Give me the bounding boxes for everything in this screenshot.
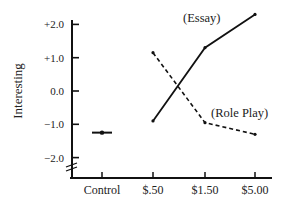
data-point [203,121,206,124]
x-tick-label: $.50 [143,183,164,197]
y-tick-label: −2.0 [44,152,64,164]
y-tick-label: 0.0 [50,85,64,97]
data-point [253,133,256,136]
x-tick-label: Control [84,183,121,197]
y-tick-label: +2.0 [44,18,64,30]
data-point [151,119,154,122]
chart: +2.0+1.00.0−1.0−2.0 Control$.50$1.50$5.0… [0,0,291,209]
role-play-series-label: (Role Play) [211,106,268,120]
y-tick-label: −1.0 [44,118,64,130]
control-point [100,130,104,134]
x-tick-label: $5.00 [242,183,269,197]
x-tick-label: $1.50 [192,183,219,197]
y-axis-title: Interesting [10,63,25,119]
data-point [151,51,154,54]
essay-line [153,14,255,121]
data-point [203,46,206,49]
y-ticks: +2.0+1.00.0−1.0−2.0 [44,18,79,163]
essay-series-label: (Essay) [183,11,221,25]
data-point [253,13,256,16]
x-ticks: Control$.50$1.50$5.00 [84,172,269,197]
y-tick-label: +1.0 [44,52,64,64]
